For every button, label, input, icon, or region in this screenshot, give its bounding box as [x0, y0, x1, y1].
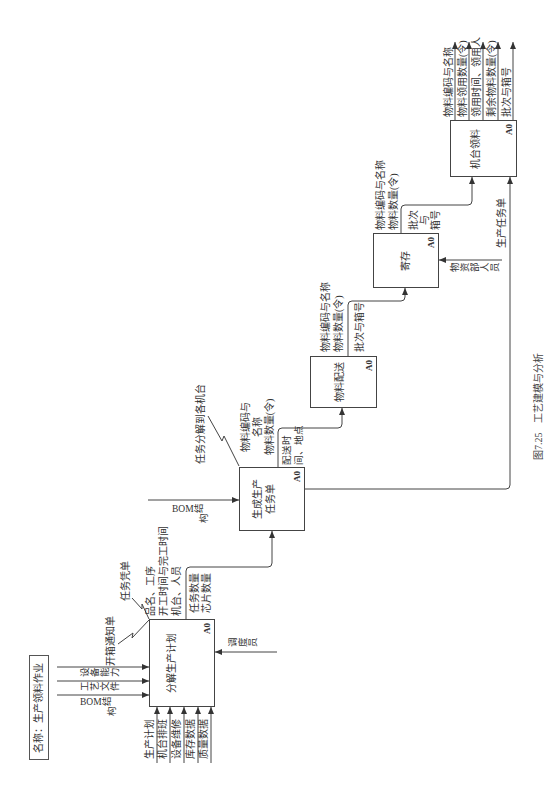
output-label-group: 批次 与 箱号 [408, 207, 441, 233]
node-label: A0 [505, 124, 514, 135]
activity-title-line: 物料配送 [333, 357, 346, 407]
activity-title-line: 寄存 [399, 234, 412, 287]
activity-title: 物料配送 [333, 357, 346, 407]
output-label-group: 物料编码与名称 物料数量(令) [374, 160, 400, 230]
output-label-line: 物料编码与名称 [319, 282, 332, 352]
callout-label: 任务分解到各机台 [196, 384, 206, 464]
output-label-group: 物料编码与名称 物料数量(令) [319, 282, 345, 352]
input-label: 设备维修 [172, 719, 182, 759]
caption-number: 图7.25 [533, 433, 544, 461]
output-label-group: 物料编码与 名称 物料数量(令) [240, 395, 276, 459]
output-label-line: 物料数量(令) [387, 160, 400, 230]
output-label-line: 与 [419, 207, 430, 233]
activity-title: 机台领料 [469, 121, 482, 176]
output-label: 任务数量 [190, 573, 200, 613]
output-label-group: 配送时 间、地点 [281, 425, 305, 465]
activity-box-decompose-plan: 分解生产计划 A0 [149, 619, 215, 707]
idef0-diagram: 名称：生产领料作业 分解生产计划 A0 生产计划 机台排班 设备维修 库存数据 … [0, 0, 550, 809]
activity-title-line: 任务单 [264, 468, 277, 530]
output-label: 物料领用数量(令) [458, 40, 468, 117]
callout-label: 开箱通知单 [106, 616, 116, 666]
control-label: BOM结构 [172, 504, 209, 524]
output-label: 物料编码与名称 [444, 47, 454, 117]
node-label: A0 [365, 360, 374, 371]
caption-title: 工艺建模与分析 [533, 353, 544, 423]
output-label: 开工时间与完工时间 [159, 526, 169, 616]
activity-title: 寄存 [399, 234, 412, 287]
task-order-flow-label: 生产任务单 [497, 198, 507, 248]
callout-squiggle [208, 416, 239, 466]
diagram-name-box: 名称：生产领料作业 [29, 655, 49, 760]
input-label: 库存数据 [186, 719, 196, 759]
mechanism-label: 物资部人员 [450, 263, 500, 273]
output-label-line: 物料数量(令) [264, 395, 276, 459]
input-label: 生产计划 [145, 719, 155, 759]
output-label: 批次与箱号 [355, 302, 365, 352]
control-label: 工艺文件 [80, 682, 120, 692]
control-label: 设备能力 [80, 668, 120, 678]
output-label: 领用时间、领用人 [472, 37, 482, 117]
activity-box-storage: 寄存 A0 [373, 233, 439, 288]
activity-title: 生成生产 任务单 [251, 468, 277, 530]
output-label: 机台、人员 [172, 566, 182, 616]
figure-page: 名称：生产领料作业 分解生产计划 A0 生产计划 机台排班 设备维修 库存数据 … [0, 0, 550, 809]
control-label: BOM结构 [80, 697, 117, 717]
callout-label: 任务凭单 [121, 561, 131, 601]
output-label-line: 名称 [252, 395, 264, 459]
output-label-line: 批次 [408, 207, 419, 233]
figure-caption: 图7.25工艺建模与分析 [534, 353, 544, 461]
output-label: 批次与箱号 [502, 67, 512, 117]
input-label: 机台排班 [158, 719, 168, 759]
activity-box-machine-picking: 机台领料 A0 [450, 120, 517, 177]
node-label: A0 [203, 623, 212, 634]
activity-title-line: 分解生产计划 [165, 620, 178, 706]
node-label: A0 [293, 471, 302, 482]
input-label: 质量数据 [199, 719, 209, 759]
activity-title: 分解生产计划 [165, 620, 178, 706]
output-label-line: 配送时 [281, 425, 293, 465]
node-label: A0 [427, 237, 436, 248]
callout-squiggle [118, 620, 149, 644]
output-label-line: 物料数量(令) [332, 282, 345, 352]
output-label: 剩余物料数量(令) [487, 40, 497, 117]
activity-box-material-delivery: 物料配送 A0 [310, 356, 377, 408]
output-label-line: 箱号 [430, 207, 441, 233]
activity-box-generate-task-order: 生成生产 任务单 A0 [239, 467, 305, 531]
output-label-line: 物料编码与名称 [374, 160, 387, 230]
mechanism-label: 调度员 [228, 638, 258, 648]
activity-title-line: 生成生产 [251, 468, 264, 530]
output-label-line: 物料编码与 [240, 395, 252, 459]
activity-title-line: 机台领料 [469, 121, 482, 176]
output-label-line: 间、地点 [293, 425, 305, 465]
output-label: 芯片数量 [202, 573, 212, 613]
output-label: 品名、工序 [146, 566, 156, 616]
